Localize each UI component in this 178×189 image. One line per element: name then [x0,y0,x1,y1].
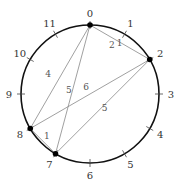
chord-8-7 [30,129,55,154]
position-label-2: 2 [157,48,163,59]
set-dot-2 [147,57,153,63]
chord-0-8 [30,25,90,129]
position-label-1: 1 [127,18,133,29]
position-label-4: 4 [157,129,163,140]
position-label-0: 0 [87,8,93,19]
chord-label-0-8: 4 [45,69,51,79]
position-label-11: 11 [43,18,56,29]
pitch-class-clock-diagram: 245651 01234567891011 1 [0,0,178,189]
position-label-6: 6 [87,170,93,181]
position-label-8: 8 [17,129,23,140]
chord-label-2-7: 5 [102,103,108,113]
chord-interval-labels: 245651 [44,40,115,141]
position-label-5: 5 [127,159,133,170]
chord-label-0-7: 5 [66,85,72,95]
chord-label-0-2: 2 [109,40,115,50]
set-dot-8 [27,126,33,132]
set-dot-0 [87,22,93,28]
set-dot-7 [53,151,59,157]
chord-label-2-8: 6 [83,82,89,92]
chord-label-8-7: 1 [44,131,50,141]
position-label-3: 3 [168,89,174,100]
arc-interval-label: 1 [117,38,123,48]
position-label-10: 10 [13,48,26,59]
position-label-9: 9 [6,89,12,100]
position-label-7: 7 [46,159,52,170]
